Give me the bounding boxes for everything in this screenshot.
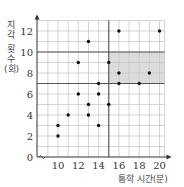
y-axis-label-line: 지 (4, 20, 18, 30)
y-axis-label-line: (회) (4, 64, 18, 74)
data-point (107, 103, 110, 106)
x-tick-label: 10 (52, 160, 65, 171)
data-point (87, 113, 90, 116)
scatter-chart: 101214161820 024681012 (0, 0, 184, 187)
x-tick-label: 18 (133, 160, 146, 171)
x-tick-label: 20 (153, 160, 166, 171)
data-point (77, 61, 80, 64)
y-tick-labels: 024681012 (20, 26, 33, 163)
y-tick-label: 2 (27, 131, 33, 142)
data-point (97, 82, 100, 85)
data-point (117, 71, 120, 74)
data-point (97, 124, 100, 127)
reference-lines (37, 21, 165, 158)
y-axis-label-line: 각 (4, 30, 18, 40)
y-axis-label: 지 각 횟 수 (회) (4, 20, 18, 74)
y-tick-label: 6 (27, 89, 33, 100)
data-point (87, 40, 90, 43)
x-axis-label: 통학 시간(분) (118, 172, 168, 185)
data-point (77, 92, 80, 95)
data-point (56, 134, 59, 137)
y-tick-label: 12 (20, 26, 33, 37)
data-point (87, 103, 90, 106)
data-point (138, 82, 141, 85)
data-point (117, 29, 120, 32)
highlight-region (109, 52, 165, 84)
y-axis-label-line: 수 (4, 54, 18, 64)
data-point (117, 82, 120, 85)
data-point (158, 29, 161, 32)
data-point (148, 71, 151, 74)
grid-lines (37, 21, 165, 158)
x-tick-label: 14 (92, 160, 105, 171)
y-tick-label: 10 (20, 47, 33, 58)
data-point (66, 113, 69, 116)
y-axis-label-line: 횟 (4, 44, 18, 54)
data-point (97, 92, 100, 95)
x-tick-labels: 101214161820 (52, 160, 166, 171)
y-tick-label: 0 (27, 152, 33, 163)
x-tick-label: 12 (72, 160, 85, 171)
axes (35, 15, 172, 160)
y-tick-label: 8 (27, 68, 33, 79)
y-tick-label: 4 (27, 110, 33, 121)
data-point (56, 124, 59, 127)
x-tick-label: 16 (113, 160, 126, 171)
data-point (107, 61, 110, 64)
